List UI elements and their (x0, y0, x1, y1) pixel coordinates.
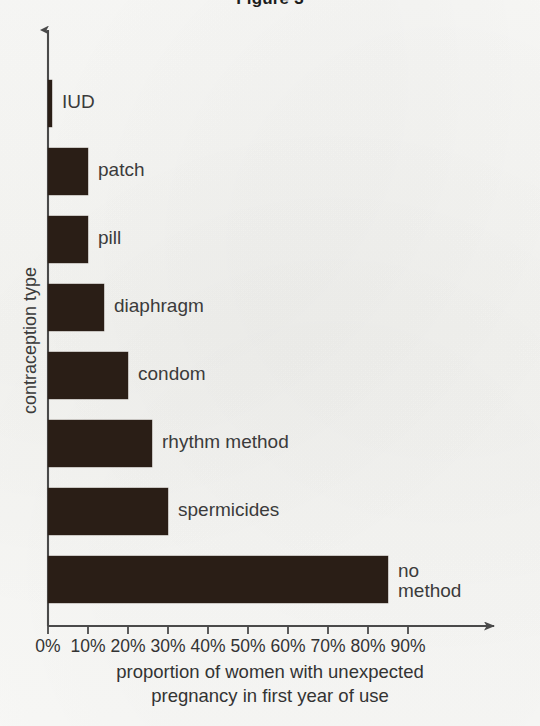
bar-spermicides (48, 488, 168, 535)
x-axis-title: proportion of women with unexpected preg… (0, 660, 540, 707)
figure-container: Figure 3 IUDpatchpilldiaphragmcondomrhyt… (0, 0, 540, 726)
x-axis-ticks (48, 626, 408, 634)
bar-diaphragm (48, 284, 104, 331)
x-tick-label-20%: 20% (110, 636, 145, 657)
x-tick-label-30%: 30% (150, 636, 185, 657)
bar-label-patch: patch (98, 160, 144, 180)
bar-pill (48, 216, 88, 263)
bar-no-method (48, 556, 388, 603)
bar-label-spermicides: spermicides (178, 500, 279, 520)
bar-label-IUD: IUD (62, 92, 95, 112)
bar-chart-plot-area: IUDpatchpilldiaphragmcondomrhythm method… (0, 0, 540, 726)
x-tick-label-60%: 60% (270, 636, 305, 657)
bar-label-condom: condom (138, 364, 206, 384)
x-tick-label-80%: 80% (350, 636, 385, 657)
bar-label-rhythm-method: rhythm method (162, 432, 289, 452)
x-tick-label-0%: 0% (35, 636, 60, 657)
bar-rhythm-method (48, 420, 152, 467)
bar-label-no-method: no method (398, 561, 461, 601)
x-tick-label-40%: 40% (190, 636, 225, 657)
x-tick-label-70%: 70% (310, 636, 345, 657)
x-tick-label-10%: 10% (70, 636, 105, 657)
bar-patch (48, 148, 88, 195)
bar-IUD (48, 80, 52, 127)
y-axis-title: contraception type (20, 251, 41, 431)
bar-condom (48, 352, 128, 399)
x-tick-label-90%: 90% (390, 636, 425, 657)
bar-label-pill: pill (98, 228, 121, 248)
bar-label-diaphragm: diaphragm (114, 296, 204, 316)
x-tick-label-50%: 50% (230, 636, 265, 657)
